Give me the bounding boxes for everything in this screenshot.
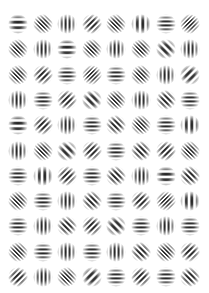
gabor-patch-diagonal-rising bbox=[82, 216, 102, 236]
gabor-patch-vertical bbox=[131, 14, 151, 34]
gabor-patch-horizontal bbox=[106, 191, 126, 211]
gabor-patch-diagonal-falling bbox=[131, 65, 151, 85]
gabor-patch-vertical bbox=[156, 65, 176, 85]
gabor-patch-grid bbox=[0, 0, 209, 293]
gabor-patch-diagonal-rising bbox=[180, 242, 200, 262]
gabor-patch-diagonal-falling bbox=[33, 14, 53, 34]
gabor-patch-vertical bbox=[8, 141, 28, 161]
gabor-patch-horizontal bbox=[8, 14, 28, 34]
gabor-patch-horizontal bbox=[180, 216, 200, 236]
gabor-patch-diagonal-rising bbox=[82, 14, 102, 34]
gabor-patch-horizontal bbox=[180, 90, 200, 110]
gabor-patch-horizontal bbox=[33, 90, 53, 110]
gabor-patch-diagonal-rising bbox=[33, 115, 53, 135]
gabor-patch-horizontal bbox=[156, 14, 176, 34]
gabor-patch-horizontal bbox=[106, 141, 126, 161]
gabor-patch-horizontal bbox=[82, 166, 102, 186]
gabor-patch-diagonal-rising bbox=[131, 267, 151, 287]
gabor-patch-horizontal bbox=[131, 216, 151, 236]
gabor-patch-vertical bbox=[106, 242, 126, 262]
gabor-patch-diagonal-falling bbox=[156, 242, 176, 262]
gabor-patch-vertical bbox=[8, 90, 28, 110]
gabor-patch-diagonal-falling bbox=[8, 242, 28, 262]
gabor-patch-diagonal-rising bbox=[8, 267, 28, 287]
gabor-patch-diagonal-falling bbox=[106, 90, 126, 110]
gabor-patch-vertical bbox=[33, 267, 53, 287]
gabor-patch-diagonal-falling bbox=[131, 39, 151, 59]
gabor-patch-diagonal-falling bbox=[8, 39, 28, 59]
gabor-patch-diagonal-rising bbox=[57, 90, 77, 110]
gabor-patch-horizontal bbox=[106, 267, 126, 287]
gabor-patch-diagonal-falling bbox=[82, 191, 102, 211]
gabor-patch-diagonal-rising bbox=[82, 267, 102, 287]
gabor-patch-diagonal-rising bbox=[82, 65, 102, 85]
gabor-patch-diagonal-falling bbox=[8, 65, 28, 85]
gabor-patch-diagonal-rising bbox=[33, 65, 53, 85]
gabor-patch-diagonal-falling bbox=[106, 216, 126, 236]
gabor-patch-diagonal-falling bbox=[106, 166, 126, 186]
gabor-patch-horizontal bbox=[33, 191, 53, 211]
gabor-patch-vertical bbox=[33, 216, 53, 236]
gabor-patch-diagonal-falling bbox=[8, 191, 28, 211]
gabor-patch-diagonal-falling bbox=[156, 39, 176, 59]
gabor-patch-horizontal bbox=[57, 39, 77, 59]
gabor-patch-vertical bbox=[57, 115, 77, 135]
gabor-patch-horizontal bbox=[57, 65, 77, 85]
gabor-patch-vertical bbox=[180, 39, 200, 59]
gabor-patch-vertical bbox=[106, 39, 126, 59]
gabor-patch-diagonal-rising bbox=[180, 14, 200, 34]
gabor-patch-diagonal-falling bbox=[180, 166, 200, 186]
gabor-patch-diagonal-rising bbox=[156, 191, 176, 211]
gabor-patch-diagonal-falling bbox=[106, 115, 126, 135]
gabor-patch-vertical bbox=[131, 90, 151, 110]
gabor-patch-diagonal-falling bbox=[131, 242, 151, 262]
gabor-patch-vertical bbox=[33, 39, 53, 59]
gabor-patch-diagonal-falling bbox=[106, 14, 126, 34]
gabor-patch-vertical bbox=[57, 14, 77, 34]
gabor-patch-diagonal-rising bbox=[82, 141, 102, 161]
gabor-patch-vertical bbox=[57, 242, 77, 262]
gabor-patch-horizontal bbox=[156, 115, 176, 135]
gabor-patch-diagonal-rising bbox=[156, 141, 176, 161]
gabor-patch-diagonal-falling bbox=[33, 141, 53, 161]
gabor-patch-diagonal-rising bbox=[180, 65, 200, 85]
gabor-patch-diagonal-falling bbox=[180, 267, 200, 287]
gabor-patch-vertical bbox=[180, 115, 200, 135]
gabor-patch-horizontal bbox=[156, 166, 176, 186]
gabor-patch-diagonal-rising bbox=[131, 191, 151, 211]
gabor-patch-diagonal-falling bbox=[57, 267, 77, 287]
gabor-patch-diagonal-falling bbox=[82, 90, 102, 110]
gabor-patch-diagonal-falling bbox=[57, 141, 77, 161]
gabor-patch-diagonal-rising bbox=[57, 166, 77, 186]
gabor-patch-diagonal-falling bbox=[82, 39, 102, 59]
gabor-patch-vertical bbox=[57, 191, 77, 211]
gabor-patch-diagonal-falling bbox=[57, 216, 77, 236]
gabor-patch-horizontal bbox=[33, 242, 53, 262]
gabor-patch-horizontal bbox=[156, 267, 176, 287]
gabor-patch-vertical bbox=[131, 166, 151, 186]
gabor-patch-diagonal-falling bbox=[180, 141, 200, 161]
gabor-patch-diagonal-falling bbox=[156, 90, 176, 110]
gabor-patch-vertical bbox=[180, 191, 200, 211]
gabor-patch-vertical bbox=[33, 166, 53, 186]
gabor-patch-horizontal bbox=[8, 115, 28, 135]
gabor-patch-diagonal-falling bbox=[131, 141, 151, 161]
gabor-patch-vertical bbox=[156, 216, 176, 236]
gabor-patch-horizontal bbox=[8, 216, 28, 236]
gabor-patch-horizontal bbox=[82, 115, 102, 135]
gabor-patch-horizontal bbox=[8, 166, 28, 186]
gabor-patch-horizontal bbox=[106, 65, 126, 85]
gabor-patch-horizontal bbox=[82, 242, 102, 262]
gabor-patch-diagonal-falling bbox=[131, 115, 151, 135]
